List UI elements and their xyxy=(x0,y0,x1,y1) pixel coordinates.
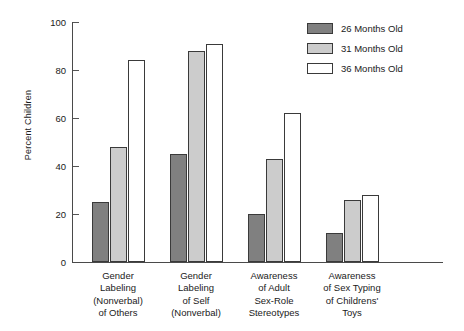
bar-g1-s3 xyxy=(128,60,145,262)
legend-label-1: 26 Months Old xyxy=(341,23,403,34)
bar-g2-s3 xyxy=(206,44,223,262)
y-tick-label-60: 60 xyxy=(30,113,66,124)
bar-g3-s2 xyxy=(266,159,283,262)
bar-group-2 xyxy=(170,22,223,262)
legend-swatch-icon-2 xyxy=(307,43,333,54)
bar-g1-s1 xyxy=(92,202,109,262)
bar-g4-s3 xyxy=(362,195,379,262)
legend-swatch-icon-3 xyxy=(307,63,333,74)
y-tick-label-40: 40 xyxy=(30,161,66,172)
category-label-line: of Sex Typing xyxy=(293,282,411,294)
y-tick-label-0: 0 xyxy=(30,257,66,268)
chart-legend: 26 Months Old31 Months Old36 Months Old xyxy=(307,20,457,80)
bar-g2-s1 xyxy=(170,154,187,262)
y-tick-label-80: 80 xyxy=(30,65,66,76)
y-tick-label-20: 20 xyxy=(30,209,66,220)
legend-label-2: 31 Months Old xyxy=(341,43,403,54)
legend-item-3[interactable]: 36 Months Old xyxy=(307,60,457,77)
bar-chart-figure: Percent Children 020406080100 GenderLabe… xyxy=(0,0,464,331)
legend-label-3: 36 Months Old xyxy=(341,63,403,74)
legend-item-2[interactable]: 31 Months Old xyxy=(307,40,457,57)
bar-g2-s2 xyxy=(188,51,205,262)
bar-group-3 xyxy=(248,22,301,262)
legend-swatch-icon-1 xyxy=(307,23,333,34)
bar-group-1 xyxy=(92,22,145,262)
y-axis-title: Percent Children xyxy=(23,55,33,195)
y-tick-label-100: 100 xyxy=(30,17,66,28)
category-label-line: Awareness xyxy=(293,270,411,282)
bar-g3-s3 xyxy=(284,113,301,262)
bar-g3-s1 xyxy=(248,214,265,262)
legend-item-1[interactable]: 26 Months Old xyxy=(307,20,457,37)
x-axis-line xyxy=(72,262,443,263)
category-label-4: Awarenessof Sex Typingof Childrens'Toys xyxy=(293,270,411,320)
category-label-line: of Childrens' xyxy=(293,295,411,307)
bar-g1-s2 xyxy=(110,147,127,262)
bar-g4-s1 xyxy=(326,233,343,262)
category-label-line: Toys xyxy=(293,307,411,319)
bar-g4-s2 xyxy=(344,200,361,262)
